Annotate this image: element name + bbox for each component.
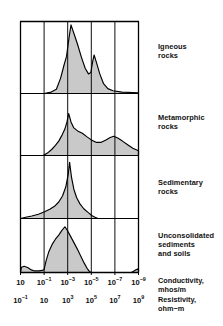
x-tick-label-conductivity-1: 10−1 <box>37 278 52 288</box>
panel-curve-igneous <box>21 25 139 94</box>
panel-label-sedimentary: Sedimentary rocks <box>158 178 203 196</box>
x-tick-label-resistivity-2: 103 <box>62 296 73 306</box>
x-axis-caption-resistivity: Resistivity, ohm−m <box>158 296 196 314</box>
x-tick-label-conductivity-5: 10−9 <box>131 278 146 288</box>
x-tick-label-conductivity-2: 10−3 <box>60 278 75 288</box>
x-tick-label-conductivity-0: 10 <box>16 278 24 288</box>
panel-label-igneous: Igneous rocks <box>158 42 187 60</box>
x-tick-label-resistivity-3: 105 <box>86 296 97 306</box>
x-tick-label-conductivity-4: 10−7 <box>108 278 123 288</box>
x-tick-label-resistivity-1: 10 <box>40 296 48 306</box>
panel-label-unconsolidated: Unconsolidated sediments and soils <box>158 231 214 259</box>
panel-curve-unconsolidated <box>21 227 139 273</box>
resistivity-conductivity-figure: Igneous rocks Metamorphic rocks Sediment… <box>0 0 223 326</box>
panel-curve-metamorphic <box>21 114 139 156</box>
panel-label-metamorphic: Metamorphic rocks <box>158 113 205 131</box>
x-tick-label-conductivity-3: 10−5 <box>84 278 99 288</box>
x-tick-label-resistivity-0: 10−1 <box>13 296 28 306</box>
x-tick-label-resistivity-5: 109 <box>133 296 144 306</box>
panel-curve-sedimentary <box>21 162 139 218</box>
x-tick-label-resistivity-4: 107 <box>109 296 120 306</box>
x-axis-caption-conductivity: Conductivity, mhos/m <box>158 277 204 295</box>
